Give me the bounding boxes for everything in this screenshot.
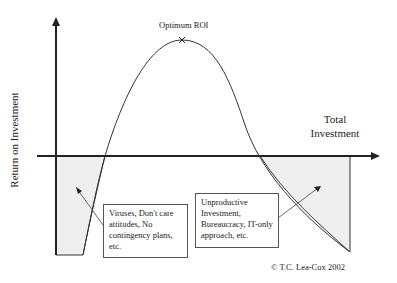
y-axis-arrow-icon <box>52 17 60 26</box>
peak-label: Optimum ROI <box>159 20 208 31</box>
x-axis-label-line2: Investment <box>305 126 365 140</box>
left-shaded-region <box>56 156 105 255</box>
right-note-box: Unproductive Investment, Bureaucracy, IT… <box>195 193 279 248</box>
copyright: © T.C. Lea-Cox 2002 <box>271 262 345 273</box>
x-axis-arrow-icon <box>371 152 380 160</box>
y-axis-label-wrap: Return on Investment <box>4 60 24 220</box>
x-axis-label: Total Investment <box>305 112 365 140</box>
left-note-box: Viruses, Don't care attitudes, No contin… <box>103 204 188 258</box>
y-axis-label: Return on Investment <box>8 92 20 187</box>
x-axis-label-line1: Total <box>305 112 365 126</box>
